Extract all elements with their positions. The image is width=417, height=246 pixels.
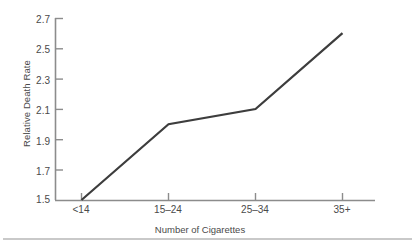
x-axis-tick-labels: <14 15–24 25–34 35+: [0, 0, 417, 246]
x-tick-label: 35+: [307, 205, 377, 215]
chart-figure: Relative Death Rate 2.7 2.5 2.3 2.1 1.9 …: [0, 0, 417, 246]
x-tick-label: <14: [46, 205, 116, 215]
x-axis-title: Number of Cigarettes: [55, 224, 345, 235]
x-tick-label: 25–34: [220, 205, 290, 215]
footer-divider: [3, 238, 412, 240]
x-tick-label: 15–24: [133, 205, 203, 215]
